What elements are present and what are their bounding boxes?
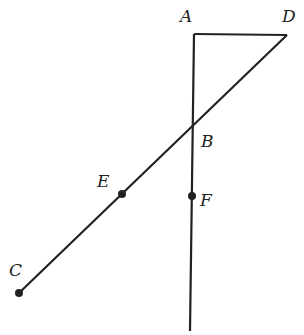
label-b: B [200,131,214,151]
point-f-dot [188,192,196,200]
geometry-diagram: A D B E F C [0,0,304,335]
label-c: C [9,260,22,280]
label-e: E [96,171,110,191]
point-e-dot [118,190,126,198]
label-a: A [178,6,192,26]
line-abf [190,34,194,331]
label-f: F [199,190,213,210]
segment-cd [19,35,287,293]
point-c-dot [15,289,23,297]
label-d: D [281,6,296,26]
segment-ad [194,34,287,35]
